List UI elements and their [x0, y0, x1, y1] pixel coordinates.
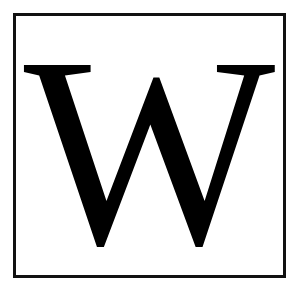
logo-letter: W — [19, 22, 281, 281]
logo-frame: W — [13, 13, 286, 278]
